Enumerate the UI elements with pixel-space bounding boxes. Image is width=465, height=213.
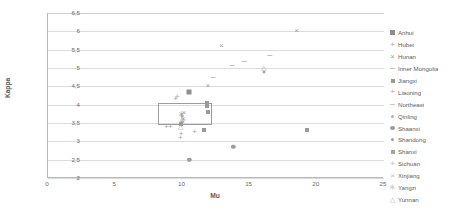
legend-item-hunan[interactable]: ×Hunan <box>388 51 465 63</box>
y-tick-label: 6 <box>46 28 80 34</box>
gridline <box>48 86 384 87</box>
legend-label: Shandong <box>398 136 426 143</box>
legend-marker-icon: + <box>388 40 397 49</box>
gridline <box>48 178 384 179</box>
data-point: – <box>242 58 247 63</box>
data-point: + <box>179 130 184 138</box>
legend-label: Sichuan <box>398 160 420 167</box>
legend-item-northeast[interactable]: –Northeast <box>388 98 465 110</box>
legend-label: Shaanxi <box>398 125 420 132</box>
legend-marker-icon: △ <box>388 195 397 204</box>
legend-item-shaanxi[interactable]: Shaanxi <box>388 122 465 134</box>
y-tick-label: 4,5 <box>46 83 80 89</box>
y-tick-label: 5 <box>46 65 80 71</box>
gridline <box>48 141 384 142</box>
y-tick-label: 6,5 <box>46 10 80 16</box>
legend-label: Shanxi <box>398 148 417 155</box>
data-point <box>305 128 309 132</box>
legend-item-liaoning[interactable]: +Liaoning <box>388 86 465 98</box>
legend-label: Yunnan <box>398 196 419 203</box>
data-point <box>202 128 206 132</box>
legend-label: Jiangxi <box>398 77 417 84</box>
legend-marker-icon <box>388 28 397 37</box>
x-tick-label: 5 <box>99 181 129 187</box>
legend-marker-icon <box>388 124 397 133</box>
legend-item-anhui[interactable]: Anhui <box>388 27 465 39</box>
gridline <box>48 123 384 124</box>
plot-area: ××–––△–×++×✳△✳△+++++ <box>47 13 383 178</box>
legend-item-inner-mongolia[interactable]: –Inner Mongolia <box>388 63 465 75</box>
legend-item-jiangxi[interactable]: Jiangxi <box>388 75 465 87</box>
legend-label: Northeast <box>398 101 424 108</box>
legend-item-yangzi[interactable]: ✳Yangzi <box>388 182 465 194</box>
y-tick-label: 5,5 <box>46 47 80 53</box>
y-tick-label: 3,5 <box>46 120 80 126</box>
legend-marker-icon <box>388 112 397 121</box>
gridline <box>48 50 384 51</box>
legend-item-hubei[interactable]: +Hubei <box>388 39 465 51</box>
legend-marker-icon <box>388 135 397 144</box>
gridline <box>48 31 384 32</box>
data-point <box>231 145 235 149</box>
legend-marker-icon: – <box>388 100 397 109</box>
x-axis-title: Mu <box>47 192 383 199</box>
chart-legend: Anhui+Hubei×Hunan–Inner MongoliaJiangxi+… <box>388 27 465 205</box>
gridline <box>48 160 384 161</box>
legend-marker-icon: + <box>388 159 397 168</box>
legend-marker-icon: + <box>388 88 397 97</box>
legend-marker-icon <box>388 76 397 85</box>
highlight-region-box <box>158 103 212 125</box>
legend-item-shanxi[interactable]: Shanxi <box>388 146 465 158</box>
y-tick-label: 2,5 <box>46 157 80 163</box>
legend-marker-icon: – <box>388 64 397 73</box>
legend-item-sichuan[interactable]: +Sichuan <box>388 158 465 170</box>
data-point: + <box>175 93 180 101</box>
legend-label: Hunan <box>398 53 416 60</box>
y-tick-label: 3 <box>46 138 80 144</box>
legend-item-shandong[interactable]: Shandong <box>388 134 465 146</box>
legend-item-yunnan[interactable]: △Yunnan <box>388 193 465 205</box>
legend-label: Yangzi <box>398 184 416 191</box>
data-point <box>263 71 266 74</box>
legend-marker-icon: ✳ <box>388 183 397 192</box>
legend-marker-icon: × <box>388 171 397 180</box>
legend-label: Anhui <box>398 29 414 36</box>
gridline <box>48 68 384 69</box>
gridline <box>48 13 384 14</box>
x-tick-label: 0 <box>32 181 62 187</box>
x-tick-label: 10 <box>166 181 196 187</box>
data-point: – <box>267 53 272 58</box>
gridline <box>48 105 384 106</box>
legend-label: Hubei <box>398 41 414 48</box>
legend-item-xinjiang[interactable]: ×Xinjiang <box>388 170 465 182</box>
legend-label: Xinjiang <box>398 172 420 179</box>
legend-marker-icon <box>388 147 397 156</box>
legend-marker-icon: × <box>388 52 397 61</box>
y-axis-title: Kappa <box>4 78 11 98</box>
legend-label: Liaoning <box>398 89 421 96</box>
data-point <box>187 89 192 94</box>
data-point: + <box>192 128 197 136</box>
legend-label: Qinling <box>398 113 417 120</box>
x-tick-label: 15 <box>234 181 264 187</box>
legend-label: Inner Mongolia <box>398 65 438 72</box>
scatter-chart: Kappa ××–––△–×++×✳△✳△+++++ 22,533,544,55… <box>0 0 465 213</box>
legend-item-qinling[interactable]: Qinling <box>388 110 465 122</box>
y-tick-label: 4 <box>46 102 80 108</box>
x-tick-label: 20 <box>301 181 331 187</box>
data-point: – <box>211 75 216 80</box>
